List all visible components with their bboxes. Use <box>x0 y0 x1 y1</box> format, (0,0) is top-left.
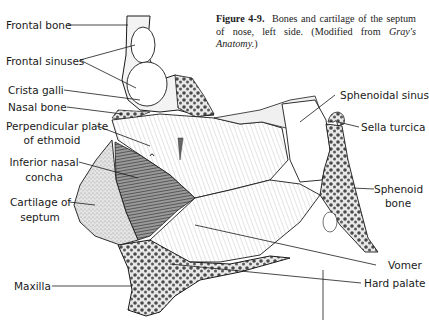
label-vomer: Vomer <box>388 259 422 271</box>
label-sphenoid-bone: Sphenoid bone <box>374 183 422 209</box>
label-nasal-bone: Nasal bone <box>8 101 67 113</box>
label-sphenoidal-sinus: Sphenoidal sinus <box>340 89 429 101</box>
label-frontal-sinuses: Frontal sinuses <box>6 55 84 67</box>
sphenoidal-sinus-shape <box>282 100 330 182</box>
sphenoid-bone-shape <box>320 124 378 252</box>
figure-caption: Figure 4-9. Bones and cartilage of the s… <box>216 13 416 51</box>
sella-turcica-shape <box>328 112 344 126</box>
label-cartilage-of-septum: Cartilage of septum <box>10 196 70 223</box>
figure-number: Figure 4-9. <box>216 13 265 24</box>
label-sella-turcica: Sella turcica <box>361 121 426 133</box>
vomer-notch <box>323 212 337 232</box>
label-frontal-bone: Frontal bone <box>6 19 71 31</box>
label-crista-galli: Crista galli <box>8 84 64 96</box>
label-inferior-nasal-concha: Inferior nasal concha <box>8 156 80 183</box>
label-perpendicular-plate: Perpendicular plate of ethmoid <box>6 120 98 146</box>
label-hard-palate: Hard palate <box>364 277 426 289</box>
label-maxilla: Maxilla <box>14 280 51 292</box>
